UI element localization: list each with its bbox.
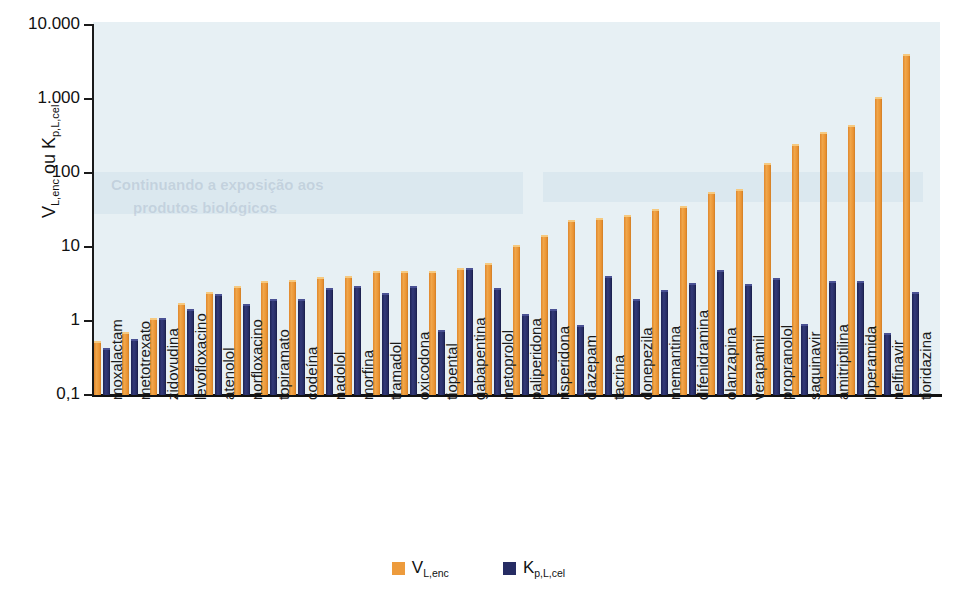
y-tick-mark (84, 246, 93, 248)
x-axis-label: nadolol (331, 352, 348, 400)
x-axis-label: morfina (359, 350, 376, 400)
x-axis-label: propranolol (778, 325, 795, 400)
bar-group (373, 22, 401, 395)
x-axis-label: diazepam (582, 335, 599, 400)
x-axis-label: difenidramina (694, 310, 711, 400)
bar-group (596, 22, 624, 395)
x-axis-label: paliperidona (527, 318, 544, 400)
y-axis-title-sub1: L,enc (49, 179, 61, 206)
x-axis-label: olanzapina (722, 327, 739, 400)
y-axis-title-var1: V (39, 206, 59, 218)
x-axis-label: tramadol (387, 342, 404, 400)
y-tick-mark (84, 394, 93, 396)
x-axis-label: risperidona (555, 326, 572, 400)
figure-container: Continuando a exposição aos produtos bio… (0, 0, 957, 602)
x-axis-label: nelfinavir (889, 340, 906, 400)
legend-swatch-v-l-enc (392, 562, 405, 575)
y-axis-title-sub2: p,L,cel (49, 105, 61, 137)
y-tick-mark (84, 98, 93, 100)
x-axis-label: memantina (666, 326, 683, 400)
legend-item-v-l-enc[interactable]: VL,enc (392, 558, 449, 579)
x-axis-label: moxalactam (108, 319, 125, 400)
y-tick-label: 10.000 (0, 14, 80, 34)
x-axis-label: verapamil (750, 335, 767, 400)
y-tick-label: 10 (0, 236, 80, 256)
bar-group (206, 22, 234, 395)
x-axis-label: donepezila (638, 327, 655, 400)
x-axis-label: norfloxacino (248, 319, 265, 400)
x-axis-label: atenolol (220, 347, 237, 400)
legend-item-k-p-l-cel[interactable]: Kp,L,cel (503, 558, 565, 579)
bar-v-l-enc (94, 341, 101, 395)
y-tick-label: 1 (0, 310, 80, 330)
y-tick-label: 0,1 (0, 384, 80, 404)
y-tick-label: 100 (0, 162, 80, 182)
y-tick-label: 1.000 (0, 88, 80, 108)
y-axis-title-var2: K (39, 137, 59, 149)
bar-group (429, 22, 457, 395)
x-axis-label: gabapentina (471, 317, 488, 400)
chart-legend: VL,encKp,L,cel (0, 558, 957, 579)
y-tick-mark (84, 172, 93, 174)
bar-group (345, 22, 373, 395)
legend-swatch-k-p-l-cel (503, 562, 516, 575)
bar-group (289, 22, 317, 395)
x-axis-label: tacrina (610, 355, 627, 400)
x-axis-label: levofloxacino (192, 313, 209, 400)
x-axis-label: zidovudina (164, 328, 181, 400)
x-axis-labels: moxalactammetotrexatozidovudinalevofloxa… (93, 398, 940, 548)
x-axis-label: amitriptilina (834, 324, 851, 400)
x-axis-label: tiopental (443, 343, 460, 400)
y-tick-mark (84, 24, 93, 26)
x-axis-label: codeína (303, 347, 320, 400)
x-axis-label: metoprolol (499, 330, 516, 400)
x-axis-label: tioridazina (917, 332, 934, 400)
x-axis-label: saquinavir (806, 332, 823, 400)
x-axis-label: topiramato (275, 329, 292, 400)
x-axis-label: oxicodona (415, 332, 432, 400)
legend-label-v-l-enc: VL,enc (412, 558, 449, 579)
x-axis-label: loperamida (862, 326, 879, 400)
y-tick-mark (84, 320, 93, 322)
x-axis-label: metotrexato (136, 321, 153, 400)
legend-label-k-p-l-cel: Kp,L,cel (523, 558, 565, 579)
bar-group (317, 22, 345, 395)
